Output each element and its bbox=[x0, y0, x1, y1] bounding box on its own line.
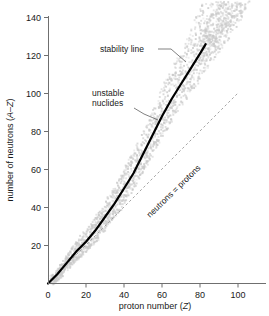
nuclide-stability-chart: 20406080100120140 020406080100 number of… bbox=[0, 0, 269, 316]
y-tick-label: 100 bbox=[26, 89, 41, 99]
neutrons-equals-protons-label: neutrons = protons bbox=[144, 163, 202, 220]
stability-line-leader bbox=[158, 49, 186, 62]
y-tick-label: 40 bbox=[31, 203, 41, 213]
unstable-nuclides-label-line1: unstable bbox=[92, 88, 124, 98]
neutrons-equals-protons-line bbox=[48, 93, 238, 283]
x-tick-label: 100 bbox=[230, 290, 245, 300]
y-tick-label: 60 bbox=[31, 165, 41, 175]
y-axis-title: number of neutrons (A–Z) bbox=[5, 98, 15, 201]
y-tick-label: 20 bbox=[31, 241, 41, 251]
x-tick-label: 80 bbox=[195, 290, 205, 300]
y-axis-ticks: 20406080100120140 bbox=[26, 13, 48, 251]
x-tick-label: 40 bbox=[119, 290, 129, 300]
y-tick-label: 140 bbox=[26, 13, 41, 23]
x-axis-title: proton number (Z) bbox=[119, 301, 192, 311]
x-tick-label: 20 bbox=[81, 290, 91, 300]
y-tick-label: 120 bbox=[26, 51, 41, 61]
x-axis-ticks: 020406080100 bbox=[45, 284, 245, 300]
unstable-nuclides-label-line2: nuclides bbox=[92, 98, 123, 108]
stability-line-label: stability line bbox=[100, 44, 144, 54]
y-tick-label: 80 bbox=[31, 127, 41, 137]
x-tick-label: 60 bbox=[157, 290, 167, 300]
x-tick-label: 0 bbox=[45, 290, 50, 300]
chart-canvas: 20406080100120140 020406080100 number of… bbox=[0, 0, 269, 316]
